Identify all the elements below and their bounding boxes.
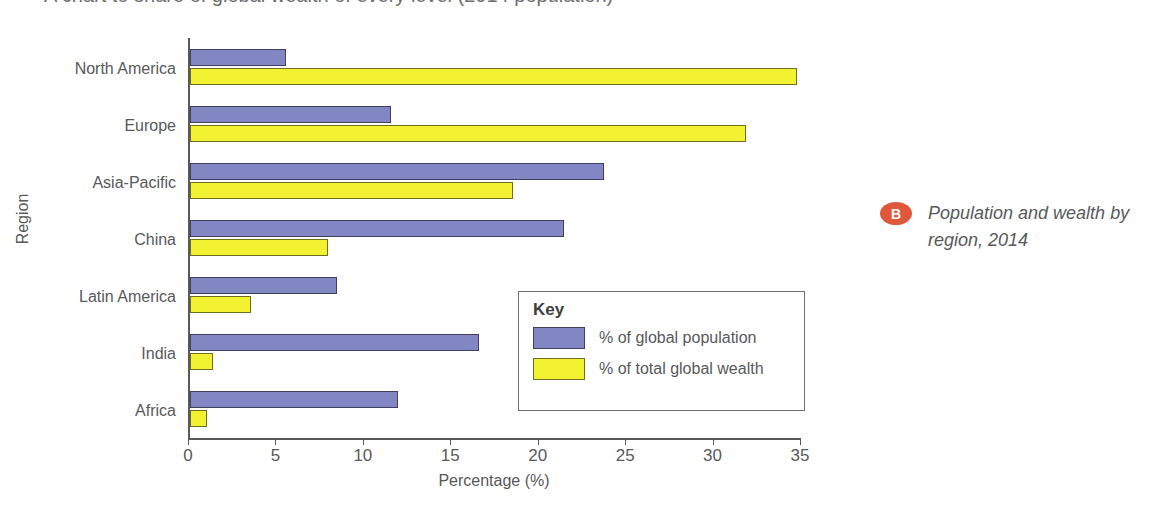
y-axis-category-label: China: [134, 233, 176, 247]
x-axis-tick-label: 35: [791, 446, 810, 466]
bar: [190, 296, 251, 313]
bar: [190, 125, 746, 142]
bar: [190, 163, 604, 180]
x-axis-tick-label: 5: [271, 446, 280, 466]
population-swatch: [533, 327, 585, 349]
bar: [190, 239, 328, 256]
caption-badge-icon: B: [880, 202, 912, 225]
bar: [190, 220, 564, 237]
y-axis-category-labels: North AmericaEuropeAsia-PacificChinaLati…: [20, 38, 184, 438]
bar-chart: Region North AmericaEuropeAsia-PacificCh…: [0, 14, 840, 504]
bar: [190, 277, 337, 294]
legend-item: % of global population: [533, 327, 804, 349]
bar: [190, 68, 797, 85]
x-axis-tick: [450, 438, 451, 445]
y-axis-category-label: Latin America: [79, 290, 176, 304]
x-axis-tick-label: 25: [616, 446, 635, 466]
x-axis-tick: [538, 438, 539, 445]
legend: Key % of global population% of total glo…: [518, 291, 805, 411]
bar: [190, 106, 391, 123]
y-axis-category-label: Africa: [135, 404, 176, 418]
x-axis-tick-label: 15: [441, 446, 460, 466]
bar: [190, 182, 513, 199]
x-axis-tick-label: 20: [528, 446, 547, 466]
x-axis-tick-label: 30: [703, 446, 722, 466]
page-title-strip: A chart to share of global wealth of eve…: [0, 0, 1162, 12]
caption-text: Population and wealth by region, 2014: [928, 200, 1150, 254]
x-axis-tick-label: 0: [183, 446, 192, 466]
x-axis-tick: [800, 438, 801, 445]
page-title: A chart to share of global wealth of eve…: [44, 0, 613, 7]
x-axis-tick: [363, 438, 364, 445]
bar: [190, 353, 213, 370]
x-axis-tick: [275, 438, 276, 445]
bar: [190, 391, 398, 408]
x-axis-tick: [188, 438, 189, 445]
bar: [190, 49, 286, 66]
wealth-swatch: [533, 358, 585, 380]
x-axis-line: [188, 438, 801, 440]
x-axis-tick: [713, 438, 714, 445]
legend-item-label: % of total global wealth: [599, 360, 764, 378]
y-axis-category-label: North America: [75, 62, 176, 76]
x-axis-label: Percentage (%): [188, 472, 800, 490]
legend-title: Key: [533, 300, 804, 320]
bar: [190, 410, 207, 427]
x-axis-tick: [625, 438, 626, 445]
legend-item: % of total global wealth: [533, 358, 804, 380]
x-axis-tick-label: 10: [353, 446, 372, 466]
y-axis-category-label: Europe: [124, 119, 176, 133]
y-axis-category-label: India: [141, 347, 176, 361]
bar: [190, 334, 479, 351]
legend-item-label: % of global population: [599, 329, 756, 347]
figure-caption: B Population and wealth by region, 2014: [880, 200, 1150, 254]
legend-items: % of global population% of total global …: [533, 327, 804, 380]
y-axis-category-label: Asia-Pacific: [92, 176, 176, 190]
